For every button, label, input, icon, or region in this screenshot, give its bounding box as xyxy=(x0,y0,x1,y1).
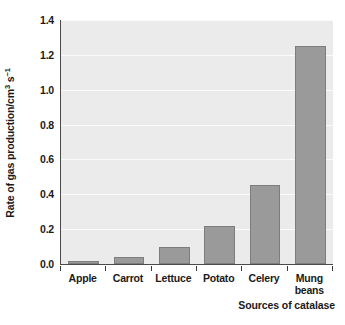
y-axis-tick-label: 0.6 xyxy=(18,154,54,164)
x-axis-title: Sources of catalase xyxy=(60,299,335,311)
x-axis-tick-mark xyxy=(151,266,152,271)
x-axis-tick-marks xyxy=(60,266,333,271)
y-axis-tick-labels: 0.00.20.40.60.81.01.21.4 xyxy=(18,20,54,264)
y-axis-title-exponent-cm: 3 xyxy=(3,85,12,89)
y-axis-tick-label: 0.2 xyxy=(18,224,54,234)
x-axis-tick-label: Carrot xyxy=(105,273,150,296)
bar[interactable] xyxy=(295,46,326,264)
y-axis-tick-label: 1.2 xyxy=(18,50,54,60)
bar-slot xyxy=(288,20,333,264)
x-axis-tick-labels: AppleCarrotLettucePotatoCeleryMung beans xyxy=(60,273,332,296)
x-axis-tick-label: Apple xyxy=(60,273,105,296)
x-axis-tick-label: Celery xyxy=(241,273,286,296)
bar-series xyxy=(61,20,333,264)
x-axis-tick-mark xyxy=(60,266,61,271)
bar[interactable] xyxy=(114,257,145,264)
y-axis-tick-label: 1.4 xyxy=(18,15,54,25)
bar-slot xyxy=(106,20,151,264)
y-axis-tick-label: 1.0 xyxy=(18,85,54,95)
bar[interactable] xyxy=(159,247,190,264)
plot-area xyxy=(60,20,333,265)
bar[interactable] xyxy=(68,261,99,264)
x-axis-tick-label: Potato xyxy=(196,273,241,296)
y-axis-title-text: Rate of gas production/cm xyxy=(4,89,16,218)
x-axis-tick-mark xyxy=(241,266,242,271)
bar-slot xyxy=(197,20,242,264)
x-axis-tick-label: Mung beans xyxy=(287,273,332,296)
bar-slot xyxy=(242,20,287,264)
y-axis-title: Rate of gas production/cm3 s−1 xyxy=(2,18,18,268)
bar[interactable] xyxy=(250,185,281,264)
y-axis-title-exponent-s: −1 xyxy=(3,68,12,76)
x-axis-tick-mark xyxy=(287,266,288,271)
bar-slot xyxy=(152,20,197,264)
bar-slot xyxy=(61,20,106,264)
x-axis-tick-mark xyxy=(332,266,333,271)
y-axis-title-seconds: s xyxy=(4,77,16,85)
y-axis-tick-label: 0.8 xyxy=(18,120,54,130)
bar[interactable] xyxy=(204,226,235,264)
x-axis-tick-label: Lettuce xyxy=(151,273,196,296)
y-axis-tick-label: 0.4 xyxy=(18,189,54,199)
x-axis-tick-mark xyxy=(196,266,197,271)
x-axis-tick-mark xyxy=(105,266,106,271)
bar-chart-figure: Rate of gas production/cm3 s−1 0.00.20.4… xyxy=(0,0,345,325)
y-axis-tick-label: 0.0 xyxy=(18,259,54,269)
